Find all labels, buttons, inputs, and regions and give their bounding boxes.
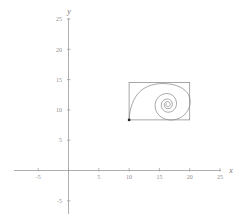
- x-tick-label-20: 20: [187, 174, 193, 180]
- bounding-rectangle: [129, 82, 190, 120]
- y-tick-label-10: 10: [56, 107, 62, 113]
- y-tick-label-5: 5: [59, 137, 62, 143]
- x-tick-label-25: 25: [217, 174, 223, 180]
- spiral-start-point-marker: [128, 119, 130, 121]
- x-tick-label-15: 15: [156, 174, 162, 180]
- logarithmic-spiral-curve: [129, 84, 190, 120]
- x-axis-label: x: [228, 166, 233, 175]
- y-tick-label-minus5: -5: [57, 198, 62, 204]
- x-tick-label-minus5: -5: [36, 174, 41, 180]
- plot-figure: -5 5 10 15 20 25 -5 5 10 15 20 25 x y: [0, 0, 244, 223]
- x-axis-ticks: [38, 168, 220, 172]
- y-tick-label-15: 15: [56, 77, 62, 83]
- y-axis-label: y: [66, 7, 71, 16]
- x-tick-label-5: 5: [97, 174, 100, 180]
- y-tick-label-25: 25: [56, 16, 62, 22]
- y-tick-label-20: 20: [56, 47, 62, 53]
- x-tick-label-10: 10: [126, 174, 132, 180]
- coordinate-plot-svg: -5 5 10 15 20 25 -5 5 10 15 20 25 x y: [0, 0, 244, 223]
